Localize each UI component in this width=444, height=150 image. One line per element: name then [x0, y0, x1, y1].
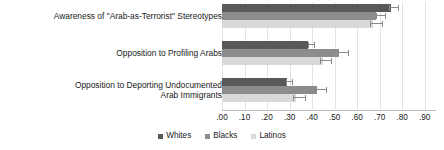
- bar-group: [222, 78, 436, 105]
- x-axis-line: [222, 110, 436, 111]
- bar-latinos: [222, 20, 373, 28]
- bar-whites: [222, 4, 391, 12]
- bar-chart: Awareness of "Arab-as-Terrorist" Stereot…: [0, 0, 444, 150]
- chart-legend: WhitesBlacksLatinos: [0, 131, 444, 141]
- legend-item-whites[interactable]: Whites: [158, 131, 191, 141]
- error-bar-blacks: [315, 89, 326, 90]
- category-label-1: Opposition to Profiling Arabs: [10, 48, 222, 58]
- bar-blacks: [222, 12, 376, 20]
- error-bar-whites: [286, 81, 293, 82]
- legend-label: Latinos: [259, 131, 285, 141]
- error-bar-whites: [389, 7, 399, 8]
- bar-row-latinos: [222, 57, 436, 65]
- bar-row-blacks: [222, 86, 436, 94]
- error-bar-blacks: [376, 15, 386, 16]
- category-label-2: Opposition to Deporting Undocumented Ara…: [10, 80, 222, 101]
- bar-group: [222, 41, 436, 68]
- legend-item-blacks[interactable]: Blacks: [205, 131, 237, 141]
- legend-label: Blacks: [213, 131, 237, 141]
- bar-row-whites: [222, 4, 436, 12]
- error-bar-blacks: [338, 52, 349, 53]
- error-bar-latinos: [370, 23, 384, 24]
- bar-row-latinos: [222, 20, 436, 28]
- legend-swatch-icon-latinos: [251, 134, 256, 139]
- plot-area: [222, 2, 436, 110]
- bar-row-latinos: [222, 94, 436, 102]
- bar-group: [222, 4, 436, 31]
- error-bar-whites: [308, 44, 316, 45]
- bar-whites: [222, 78, 287, 86]
- legend-swatch-icon-blacks: [205, 134, 210, 139]
- bar-whites: [222, 41, 308, 49]
- bar-row-blacks: [222, 12, 436, 20]
- bar-blacks: [222, 86, 317, 94]
- category-label-0: Awareness of "Arab-as-Terrorist" Stereot…: [10, 11, 222, 21]
- legend-swatch-icon-whites: [158, 134, 163, 139]
- error-bar-latinos: [293, 97, 307, 98]
- bar-row-blacks: [222, 49, 436, 57]
- bar-latinos: [222, 57, 323, 65]
- x-tick-90: .90: [412, 112, 438, 123]
- x-axis-tick-labels: .00.10.20.30.40.50.60.70.80.90: [222, 112, 436, 124]
- bar-row-whites: [222, 78, 436, 86]
- legend-item-latinos[interactable]: Latinos: [251, 131, 285, 141]
- legend-label: Whites: [166, 131, 191, 141]
- bar-blacks: [222, 49, 339, 57]
- error-bar-latinos: [320, 60, 332, 61]
- bar-latinos: [222, 94, 296, 102]
- bar-row-whites: [222, 41, 436, 49]
